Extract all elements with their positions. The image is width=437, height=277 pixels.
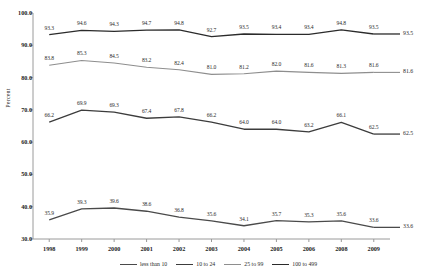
line-chart: 100.090.080.070.060.050.040.030.0 Percen… xyxy=(0,0,437,277)
legend: less than 1010 to 2425 to 99100 to 499 xyxy=(0,261,437,267)
data-label: 63.2 xyxy=(297,122,321,128)
data-label: 67.8 xyxy=(167,107,191,113)
x-tick-label: 2003 xyxy=(196,245,228,252)
data-label: 39.3 xyxy=(70,199,94,205)
series-end-label: 93.5 xyxy=(403,30,413,36)
legend-item[interactable]: 10 to 24 xyxy=(176,261,215,267)
x-tick-label: 1998 xyxy=(33,245,65,252)
data-label: 35.6 xyxy=(329,211,353,217)
data-label: 94.7 xyxy=(135,20,159,26)
data-label: 93.3 xyxy=(37,25,61,31)
data-label: 66.1 xyxy=(329,112,353,118)
data-label: 81.6 xyxy=(362,62,386,68)
data-label: 82.4 xyxy=(167,60,191,66)
data-label: 85.3 xyxy=(70,50,94,56)
y-tick-label: 50.0 xyxy=(21,170,32,177)
series-end-label: 62.5 xyxy=(403,130,413,136)
data-label: 84.5 xyxy=(102,53,126,59)
y-axis-ticks: 100.090.080.070.060.050.040.030.0 xyxy=(0,0,32,277)
x-tick-label: 2006 xyxy=(293,245,325,252)
data-label: 93.4 xyxy=(297,24,321,30)
x-tick-label: 2001 xyxy=(131,245,163,252)
x-tick-label: 2002 xyxy=(163,245,195,252)
series-end-label: 81.6 xyxy=(403,68,413,74)
data-label: 92.7 xyxy=(200,27,224,33)
data-label: 81.0 xyxy=(200,64,224,70)
data-label: 94.8 xyxy=(329,20,353,26)
data-label: 93.5 xyxy=(362,24,386,30)
data-label: 81.6 xyxy=(297,62,321,68)
data-label: 93.4 xyxy=(264,24,288,30)
data-label: 94.8 xyxy=(167,20,191,26)
data-label: 35.7 xyxy=(264,211,288,217)
data-label: 62.5 xyxy=(362,124,386,130)
y-tick-label: 30.0 xyxy=(21,235,32,242)
data-label: 36.8 xyxy=(167,207,191,213)
data-label: 34.1 xyxy=(232,216,256,222)
y-tick-label: 100.0 xyxy=(18,9,32,16)
data-label: 38.6 xyxy=(135,201,159,207)
data-label: 64.0 xyxy=(232,119,256,125)
data-label: 69.9 xyxy=(70,100,94,106)
data-label: 39.6 xyxy=(102,198,126,204)
y-axis-title: Percent xyxy=(5,68,11,128)
data-label: 94.6 xyxy=(70,20,94,26)
series-end-label: 33.6 xyxy=(403,223,413,229)
legend-item[interactable]: 100 to 499 xyxy=(272,261,317,267)
legend-item[interactable]: less than 10 xyxy=(120,261,167,267)
data-label: 35.9 xyxy=(37,210,61,216)
y-tick-label: 60.0 xyxy=(21,138,32,145)
legend-label: less than 10 xyxy=(140,261,167,267)
data-label: 64.0 xyxy=(264,119,288,125)
data-label: 66.2 xyxy=(200,112,224,118)
x-tick-label: 2000 xyxy=(98,245,130,252)
legend-swatch xyxy=(120,264,137,265)
legend-label: 10 to 24 xyxy=(196,261,215,267)
y-tick-label: 80.0 xyxy=(21,74,32,81)
y-tick-label: 70.0 xyxy=(21,106,32,113)
legend-item[interactable]: 25 to 99 xyxy=(224,261,263,267)
data-label: 81.2 xyxy=(232,64,256,70)
data-label: 35.6 xyxy=(200,211,224,217)
plot-area xyxy=(0,0,437,277)
y-tick-label: 90.0 xyxy=(21,41,32,48)
x-tick-label: 2008 xyxy=(325,245,357,252)
data-label: 66.2 xyxy=(37,112,61,118)
legend-swatch xyxy=(176,264,193,265)
legend-label: 100 to 499 xyxy=(292,261,317,267)
data-label: 67.4 xyxy=(135,108,159,114)
data-label: 94.3 xyxy=(102,21,126,27)
legend-swatch xyxy=(272,264,289,265)
legend-swatch xyxy=(224,264,241,265)
y-tick-label: 40.0 xyxy=(21,203,32,210)
data-label: 35.3 xyxy=(297,212,321,218)
data-label: 81.3 xyxy=(329,63,353,69)
data-label: 82.0 xyxy=(264,61,288,67)
data-label: 69.3 xyxy=(102,102,126,108)
x-tick-label: 2004 xyxy=(228,245,260,252)
data-label: 33.6 xyxy=(362,217,386,223)
data-label: 83.8 xyxy=(37,55,61,61)
legend-label: 25 to 99 xyxy=(244,261,263,267)
x-tick-label: 2005 xyxy=(260,245,292,252)
axes xyxy=(30,13,390,242)
data-label: 83.2 xyxy=(135,57,159,63)
x-tick-label: 2009 xyxy=(358,245,390,252)
x-tick-label: 1999 xyxy=(66,245,98,252)
data-label: 93.5 xyxy=(232,24,256,30)
